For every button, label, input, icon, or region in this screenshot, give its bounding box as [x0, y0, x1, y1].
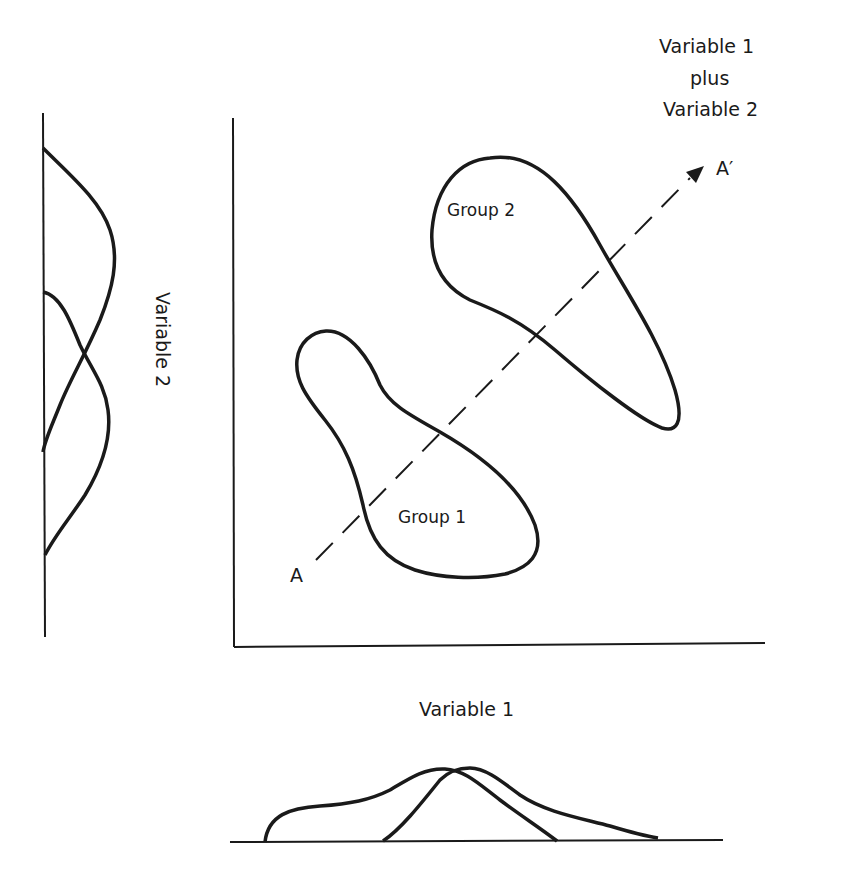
combined-axis-label-line3: Variable 2 [663, 100, 758, 119]
axis-end-label: A′ [716, 159, 733, 178]
y-axis-label: Variable 2 [153, 292, 172, 387]
bottom-marginal-curve-group-2 [383, 768, 658, 841]
bottom-marginal-curve-group-1 [265, 769, 557, 842]
left-marginal-curve-group-2 [43, 148, 115, 452]
arrow-head-icon [686, 166, 704, 183]
main-y-axis [233, 118, 234, 647]
bottom-marginal-axis [230, 840, 723, 842]
group-1-outline [297, 331, 538, 578]
axis-start-label: A [290, 566, 303, 585]
x-axis-label: Variable 1 [419, 700, 514, 719]
group-2-outline [432, 157, 679, 429]
main-x-axis [234, 643, 765, 647]
left-marginal-axis [43, 113, 45, 637]
group-2-label: Group 2 [447, 202, 515, 219]
group-1-label: Group 1 [398, 509, 466, 526]
combined-axis-label-line2: plus [690, 69, 729, 88]
discriminant-diagram [0, 0, 851, 884]
combined-axis-label-line1: Variable 1 [659, 37, 754, 56]
